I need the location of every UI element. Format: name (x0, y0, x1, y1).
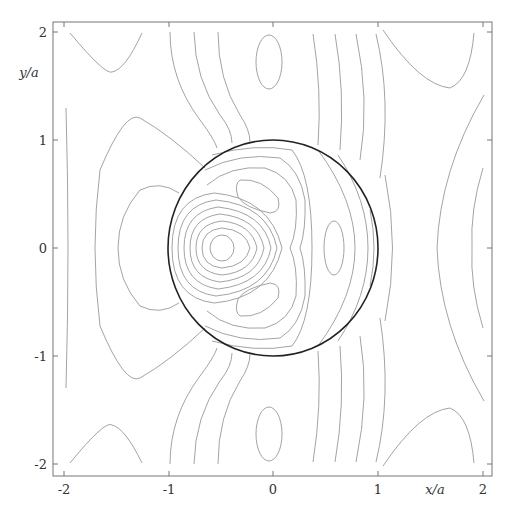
y-ticks (53, 32, 492, 464)
y-axis-label: y/a (18, 65, 38, 80)
x-ticks (64, 22, 483, 476)
contour-lines (66, 30, 484, 466)
y-tick-label: 0 (39, 241, 47, 256)
x-tick-label: -2 (58, 482, 71, 497)
y-tick-label: -2 (34, 457, 47, 472)
x-tick-label: -1 (163, 482, 176, 497)
x-axis-label: x/a (425, 482, 444, 497)
contour-plot: -2 -1 0 1 2 2 1 0 -1 -2 x/a y/a (0, 0, 512, 514)
x-tick-label: 2 (479, 482, 487, 497)
unit-circle (168, 140, 378, 356)
x-tick-label: 0 (269, 482, 277, 497)
x-tick-label: 1 (374, 482, 382, 497)
y-tick-label: 1 (39, 133, 47, 148)
y-tick-label: 2 (39, 25, 47, 40)
y-tick-label: -1 (34, 349, 47, 364)
